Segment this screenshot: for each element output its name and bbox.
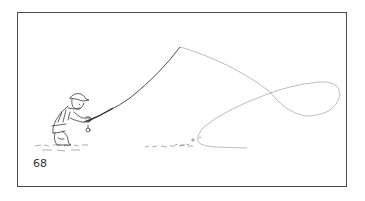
fly-line — [180, 47, 340, 148]
fly-icon — [191, 137, 201, 142]
fly-rod — [84, 47, 180, 122]
fly-casting-illustration — [0, 0, 365, 201]
page-number: 68 — [33, 157, 47, 170]
fisherman-figure — [52, 94, 91, 146]
rod-butt — [88, 108, 113, 121]
